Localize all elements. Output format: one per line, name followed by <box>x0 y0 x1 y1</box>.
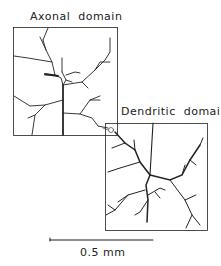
soma-marker <box>109 128 114 133</box>
neuron-diagram <box>0 0 221 266</box>
axon-tree <box>14 28 110 135</box>
dendrite-tree <box>106 123 203 228</box>
